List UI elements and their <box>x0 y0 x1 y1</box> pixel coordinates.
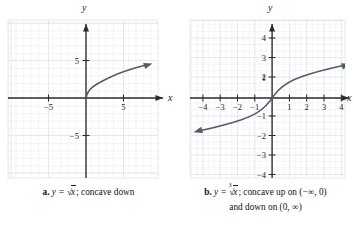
x-tick-label-2-b: 2 <box>305 103 309 112</box>
caption-a-label: a. <box>43 187 50 197</box>
x-tick-label-neg4-b: −4 <box>198 103 208 112</box>
caption-a-radicand: x <box>71 185 76 199</box>
y-tick-label-3-b: 3 <box>262 54 266 63</box>
x-tick-label-neg5-a: −5 <box>44 102 53 112</box>
panel-a: −5 5 5 −5 y x a. y = √x; concave down <box>0 0 177 225</box>
x-axis-letter-b: x <box>347 93 351 103</box>
y-tick-label-neg4-b: −4 <box>257 171 267 180</box>
figure-two-graphs: −5 5 5 −5 y x a. y = √x; concave down <box>0 0 354 225</box>
panel-b: −4 −3 −2 −1 1 2 3 4 4 3 2 1 −1 −2 <box>177 0 354 225</box>
y-tick-label-neg1-b: −1 <box>257 112 266 121</box>
x-tick-label-neg1-b: −1 <box>250 103 259 112</box>
x-axis-letter-a: x <box>168 93 172 103</box>
caption-a-radical: √x <box>67 185 76 199</box>
caption-a-tail: ; concave down <box>76 187 134 197</box>
caption-b-radical-index: 3 <box>229 181 232 189</box>
x-tick-label-neg3-b: −3 <box>216 103 225 112</box>
caption-a: a. y = √x; concave down <box>0 185 177 199</box>
y-tick-label-neg3-b: −3 <box>257 151 266 160</box>
caption-b-radicand: x <box>233 185 238 199</box>
plot-a-sqrt: −5 5 5 −5 <box>0 0 177 190</box>
y-label-1-b: 1 <box>262 74 266 83</box>
x-tick-label-3-b: 3 <box>322 103 326 112</box>
caption-b: b. y = 3√x; concave up on (−∞, 0) <box>177 185 354 199</box>
y-tick-label-5-a: 5 <box>75 56 79 66</box>
y-tick-label-neg5-a: −5 <box>70 131 79 141</box>
caption-b-radical: 3√x <box>229 185 238 199</box>
caption-b-eq-lhs: y = <box>214 187 227 197</box>
x-tick-label-1-b: 1 <box>287 103 291 112</box>
caption-b-line2: and down on (0, ∞) <box>177 201 354 214</box>
x-tick-label-neg2-b: −2 <box>233 103 242 112</box>
caption-b-line2-text: and down on (0, ∞) <box>229 202 301 212</box>
y-axis-letter-a: y <box>82 3 86 13</box>
y-axis-letter-b: y <box>268 3 272 13</box>
caption-b-label: b. <box>204 187 212 197</box>
x-tick-label-5-a: 5 <box>121 102 125 112</box>
y-tick-label-neg2-b: −2 <box>257 132 266 141</box>
caption-b-tail: ; concave up on (−∞, 0) <box>238 187 326 197</box>
caption-a-eq-lhs: y = <box>52 187 65 197</box>
plot-b-cbrt: −4 −3 −2 −1 1 2 3 4 4 3 2 1 −1 −2 <box>177 0 354 190</box>
